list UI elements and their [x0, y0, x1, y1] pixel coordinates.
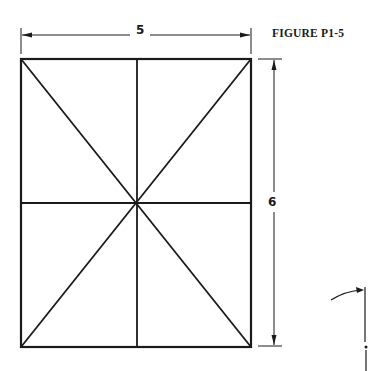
width-dimension-label: 5	[130, 24, 150, 36]
arc-arrowhead-icon	[356, 287, 364, 293]
arrowhead-up-icon	[272, 60, 277, 70]
arrowhead-left-icon	[22, 33, 32, 38]
partial-figure-dot	[365, 346, 368, 349]
arrowhead-right-icon	[240, 33, 250, 38]
figure-caption: FIGURE P1-5	[272, 27, 344, 39]
diagram-canvas	[0, 0, 368, 371]
arrowhead-down-icon	[272, 335, 277, 345]
height-dimension-label: 6	[268, 192, 276, 212]
